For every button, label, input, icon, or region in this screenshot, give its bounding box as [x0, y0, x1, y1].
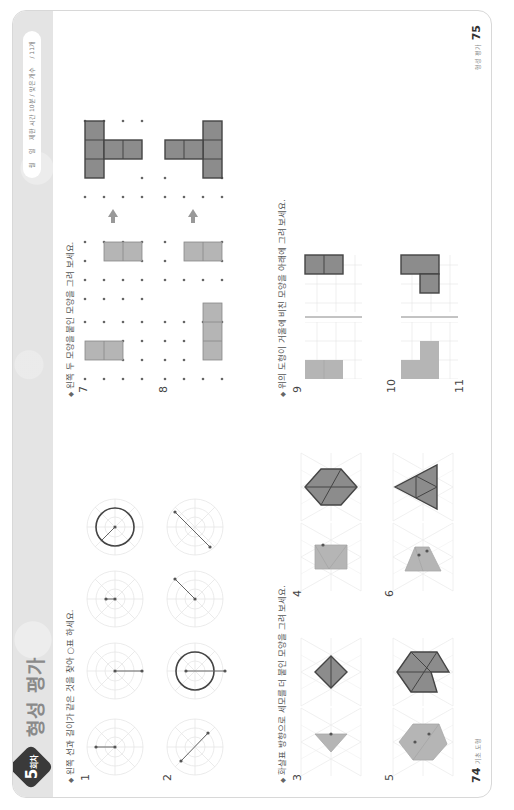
worksheet-spread: 5회차 형성 평가 월 일 제한 시간 10분 / 맞은 개수 / 11개 ◆왼… [0, 0, 514, 810]
q9-grid [305, 255, 362, 379]
footer-right: 형성 평가75 [470, 25, 483, 74]
page-frame: 5회차 형성 평가 월 일 제한 시간 10분 / 맞은 개수 / 11개 ◆왼… [12, 10, 492, 798]
page-number-right: 75 [470, 25, 483, 40]
footer-label-right: 형성 평가 [474, 44, 481, 70]
q10-grid [401, 255, 458, 379]
mirror-grids [13, 10, 492, 797]
